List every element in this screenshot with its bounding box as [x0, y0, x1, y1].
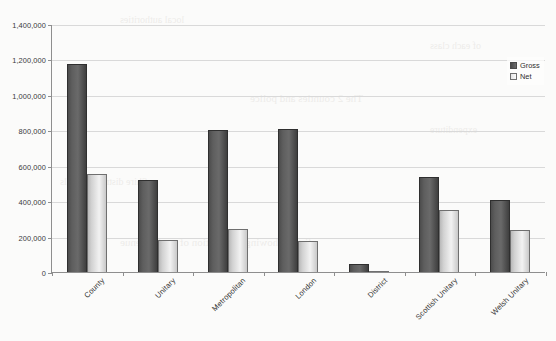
y-axis-tick-label: 200,000	[19, 233, 46, 242]
bar-gross[interactable]	[490, 200, 510, 272]
y-axis-tick-label: 0	[42, 269, 46, 278]
bar-net[interactable]	[228, 229, 248, 272]
bar-gross[interactable]	[419, 177, 439, 272]
bar-gross[interactable]	[349, 264, 369, 272]
legend-swatch-gross	[510, 62, 517, 69]
x-axis-labels: CountyUnitaryMetropolitanLondonDistrictS…	[51, 276, 545, 340]
x-axis-label: District	[365, 276, 389, 300]
y-axis-tick-label: 1,000,000	[12, 91, 46, 100]
x-axis-label: Metropolitan	[211, 276, 248, 313]
bar-group	[404, 25, 474, 272]
x-axis-label: Scottish Unitary	[414, 276, 460, 322]
x-axis-label: Welsh Unitary	[489, 276, 530, 317]
bar-group	[334, 25, 404, 272]
bar-gross[interactable]	[208, 130, 228, 272]
bar-groups	[52, 25, 545, 272]
bar-group	[263, 25, 333, 272]
y-axis-tick-label: 1,200,000	[12, 56, 46, 65]
bar-chart: 0200,000400,000600,000800,0001,000,0001,…	[0, 0, 556, 341]
bar-net[interactable]	[87, 174, 107, 272]
legend-item[interactable]: Gross	[510, 60, 540, 71]
bar-net[interactable]	[298, 241, 318, 272]
legend-swatch-net	[510, 73, 517, 80]
legend-label: Gross	[520, 61, 540, 70]
x-axis-label: Unitary	[153, 276, 177, 300]
bar-net[interactable]	[439, 210, 459, 272]
bar-net[interactable]	[369, 271, 389, 272]
chart-legend: GrossNet	[507, 57, 544, 85]
y-axis-tick-label: 600,000	[19, 162, 46, 171]
y-axis-tick-label: 800,000	[19, 127, 46, 136]
bar-gross[interactable]	[278, 129, 298, 272]
bar-gross[interactable]	[67, 64, 87, 272]
bar-net[interactable]	[158, 240, 178, 272]
bar-gross[interactable]	[138, 180, 158, 272]
bar-group	[193, 25, 263, 272]
bar-group	[122, 25, 192, 272]
y-axis-tick-label: 400,000	[19, 198, 46, 207]
plot-area: 0200,000400,000600,000800,0001,000,0001,…	[51, 25, 545, 273]
legend-label: Net	[520, 72, 532, 81]
bar-group	[52, 25, 122, 272]
bar-net[interactable]	[510, 230, 530, 273]
x-axis-label: County	[83, 276, 107, 300]
y-axis-tick-label: 1,400,000	[12, 21, 46, 30]
x-axis-tick-mark	[546, 272, 547, 276]
x-axis-label: London	[293, 276, 318, 301]
legend-item[interactable]: Net	[510, 71, 540, 82]
